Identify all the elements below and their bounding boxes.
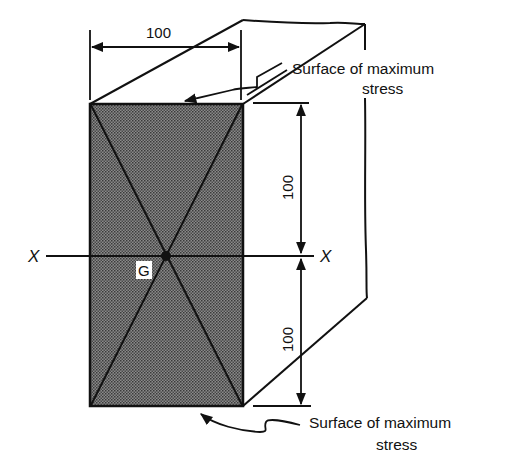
upper-height-label: 100 (279, 175, 296, 200)
lower-height-label: 100 (279, 327, 296, 352)
bottom-right-depth-edge (243, 298, 367, 406)
top-annotation-line2: stress (362, 80, 404, 97)
axis-label-right: X (319, 247, 332, 266)
top-leader-tail (247, 70, 287, 95)
top-annotation-line1: Surface of maximum (292, 60, 434, 77)
axis-label-left: X (27, 247, 40, 266)
back-right-edge (365, 98, 367, 298)
height-dimension (253, 103, 311, 406)
beam-diagram: X X G 100 100 100 Surface of maximum str… (0, 0, 513, 467)
centroid-point (161, 251, 171, 261)
top-back-edge (243, 20, 365, 24)
width-dimension-label: 100 (146, 24, 171, 41)
bottom-leader-arrow (201, 414, 300, 432)
centroid-label: G (138, 262, 150, 279)
bottom-annotation-line1: Surface of maximum (309, 414, 451, 431)
bottom-annotation-line2: stress (376, 436, 418, 453)
